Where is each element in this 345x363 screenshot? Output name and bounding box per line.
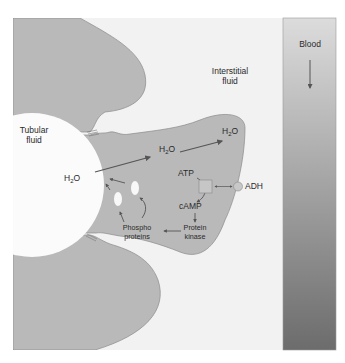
interstitial-fluid-label: Interstitial fluid xyxy=(205,66,255,86)
camp-label: cAMP xyxy=(179,201,202,211)
aquaporin-vesicle xyxy=(114,192,122,206)
water-lumen-label: H2O xyxy=(64,173,80,183)
adh-molecule xyxy=(234,182,243,191)
adh-mechanism-diagram: Tubular fluid Interstitial fluid Blood H… xyxy=(0,0,345,363)
water-interstitial-label: H2O xyxy=(222,126,238,136)
interstitial-fluid-line1: Interstitial xyxy=(205,66,255,76)
water-cell-label: H2O xyxy=(159,144,175,154)
blood-label: Blood xyxy=(293,39,327,49)
v2-receptor xyxy=(199,180,212,193)
tubular-fluid-line2: fluid xyxy=(16,135,52,145)
phosphoproteins-label: Phospho proteins xyxy=(117,224,157,241)
tubular-fluid-label: Tubular fluid xyxy=(16,125,52,145)
tubular-fluid-line1: Tubular xyxy=(16,125,52,135)
interstitial-fluid-line2: fluid xyxy=(205,76,255,86)
protein-kinase-label: Protein kinase xyxy=(181,224,209,241)
adh-label: ADH xyxy=(245,181,263,191)
aquaporin-vesicle xyxy=(131,181,139,195)
atp-label: ATP xyxy=(178,168,194,178)
phosphoproteins-line2: proteins xyxy=(117,233,157,242)
protein-kinase-line2: kinase xyxy=(181,233,209,242)
